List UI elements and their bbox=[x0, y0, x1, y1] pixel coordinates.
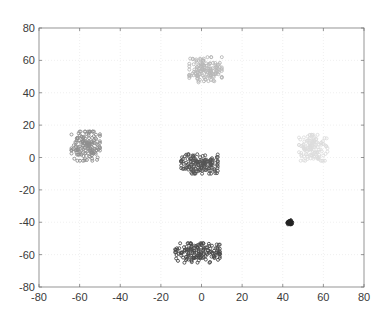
data-points bbox=[70, 56, 329, 265]
data-point bbox=[84, 130, 87, 133]
y-tick-label: 40 bbox=[23, 87, 35, 99]
data-point bbox=[298, 136, 301, 139]
chart-canvas: -80-60-40-20020406080 -80-60-40-20020406… bbox=[0, 0, 389, 320]
data-point bbox=[182, 256, 185, 259]
data-point bbox=[91, 136, 94, 139]
x-tick-label: 80 bbox=[358, 291, 370, 303]
data-point bbox=[215, 243, 218, 246]
data-point bbox=[183, 246, 186, 249]
data-point bbox=[210, 255, 213, 258]
data-point bbox=[188, 62, 191, 65]
data-point bbox=[70, 152, 73, 155]
data-point bbox=[201, 172, 204, 175]
data-point bbox=[196, 153, 199, 156]
data-point bbox=[216, 153, 219, 156]
data-point bbox=[70, 133, 73, 136]
data-point bbox=[205, 62, 208, 65]
data-point bbox=[73, 157, 76, 160]
cluster-top bbox=[188, 56, 224, 84]
data-point bbox=[188, 68, 191, 71]
data-point bbox=[209, 247, 212, 250]
y-tick-label: 0 bbox=[29, 152, 35, 164]
data-point bbox=[326, 150, 329, 153]
data-point bbox=[316, 133, 319, 136]
data-point bbox=[82, 155, 85, 158]
data-point bbox=[306, 155, 309, 158]
data-point bbox=[211, 61, 214, 64]
data-point bbox=[299, 159, 302, 162]
data-point bbox=[91, 159, 94, 162]
data-point bbox=[195, 251, 198, 254]
data-point bbox=[81, 144, 84, 147]
data-point bbox=[192, 63, 195, 66]
x-tick-label: -40 bbox=[112, 291, 128, 303]
y-tick-label: -80 bbox=[19, 281, 35, 293]
data-point bbox=[87, 137, 90, 140]
x-tick-label: -20 bbox=[153, 291, 169, 303]
data-point bbox=[179, 242, 182, 245]
data-point bbox=[72, 144, 75, 147]
data-point bbox=[325, 137, 328, 140]
data-point bbox=[220, 56, 223, 59]
y-tick-label: 60 bbox=[23, 54, 35, 66]
data-point bbox=[202, 252, 205, 255]
data-point bbox=[187, 154, 190, 157]
y-tick-label: 20 bbox=[23, 119, 35, 131]
data-point bbox=[183, 261, 186, 264]
x-tick-label: 0 bbox=[198, 291, 204, 303]
x-tick-label: 60 bbox=[317, 291, 329, 303]
data-point bbox=[178, 247, 181, 250]
scatter-chart: -80-60-40-20020406080 -80-60-40-20020406… bbox=[0, 0, 389, 320]
data-point bbox=[78, 159, 81, 162]
x-tick-label: 20 bbox=[236, 291, 248, 303]
data-point bbox=[189, 242, 192, 245]
data-point bbox=[94, 133, 97, 136]
data-point bbox=[176, 259, 179, 262]
cluster-right bbox=[298, 133, 329, 162]
y-tick-label: -60 bbox=[19, 249, 35, 261]
data-point bbox=[199, 156, 202, 159]
data-point bbox=[174, 248, 177, 251]
data-point bbox=[96, 156, 99, 159]
data-point bbox=[207, 242, 210, 245]
data-point bbox=[210, 172, 213, 175]
y-tick-label: -20 bbox=[19, 184, 35, 196]
data-point bbox=[95, 149, 98, 152]
data-point bbox=[206, 56, 209, 59]
y-tick-label: 80 bbox=[23, 22, 35, 34]
data-point bbox=[180, 164, 183, 167]
x-tick-label: 40 bbox=[277, 291, 289, 303]
x-tick-label: -60 bbox=[72, 291, 88, 303]
data-point bbox=[218, 243, 221, 246]
data-point bbox=[210, 78, 213, 81]
cluster-center bbox=[180, 153, 220, 175]
y-tick-label: -40 bbox=[19, 216, 35, 228]
data-point bbox=[302, 136, 305, 139]
data-point bbox=[211, 67, 214, 70]
cluster-bottom bbox=[174, 242, 222, 264]
cluster-small-dark bbox=[286, 219, 294, 226]
data-point bbox=[190, 168, 193, 171]
data-point bbox=[220, 76, 223, 79]
